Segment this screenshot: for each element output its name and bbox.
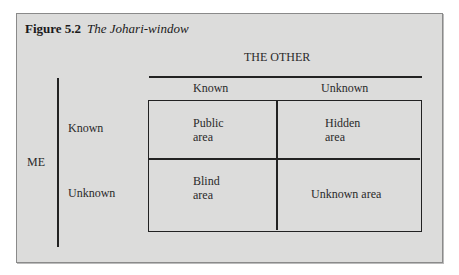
figure-caption: The Johari-window	[87, 21, 188, 36]
quadrant-public: Public area	[193, 116, 224, 144]
figure-label: Figure 5.2	[25, 21, 81, 36]
row-label-known: Known	[68, 121, 103, 136]
column-label-unknown: Unknown	[321, 81, 368, 96]
quadrant-blind: Blind area	[193, 174, 220, 202]
column-label-known: Known	[193, 81, 228, 96]
the-other-rule	[149, 76, 422, 78]
quadrant-hidden: Hidden area	[325, 116, 360, 144]
the-other-heading: THE OTHER	[244, 50, 310, 65]
figure-title: Figure 5.2The Johari-window	[25, 21, 189, 37]
row-label-unknown: Unknown	[68, 186, 115, 201]
grid-horizontal-divider	[149, 158, 420, 160]
quadrant-unknown: Unknown area	[311, 187, 381, 201]
grid-vertical-divider	[276, 101, 278, 230]
me-rule	[57, 78, 59, 247]
me-heading: ME	[27, 155, 45, 170]
johari-grid: Public area Hidden area Blind area Unkno…	[148, 100, 422, 232]
